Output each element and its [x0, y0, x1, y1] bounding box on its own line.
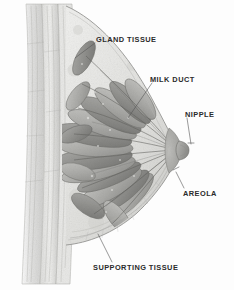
breast-anatomy-figure: GLAND TISSUE MILK DUCT NIPPLE AREOLA SUP…: [0, 0, 234, 290]
label-nipple: NIPPLE: [185, 111, 214, 118]
label-areola: AREOLA: [183, 190, 217, 197]
label-supporting-tissue: SUPPORTING TISSUE: [93, 264, 178, 271]
label-gland-tissue: GLAND TISSUE: [96, 36, 156, 43]
label-milk-duct: MILK DUCT: [150, 76, 195, 83]
